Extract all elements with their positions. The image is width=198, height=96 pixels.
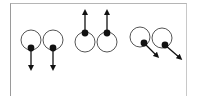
pupil-icon — [162, 42, 169, 49]
eye-pair-down-right — [130, 27, 180, 58]
pupil-icon — [141, 40, 148, 47]
eye-pair-up — [75, 12, 117, 52]
pupil-icon — [50, 45, 57, 52]
eye-pair-down — [21, 30, 63, 68]
eye-down-1 — [21, 30, 41, 68]
eye-down-right-2 — [152, 28, 180, 58]
pupil-icon — [82, 30, 89, 37]
eye-up-1 — [75, 12, 95, 52]
pupil-icon — [104, 30, 111, 37]
eyes-diagram — [0, 0, 198, 96]
eye-up-2 — [97, 12, 117, 52]
eye-down-2 — [43, 30, 63, 68]
pupil-icon — [28, 45, 35, 52]
